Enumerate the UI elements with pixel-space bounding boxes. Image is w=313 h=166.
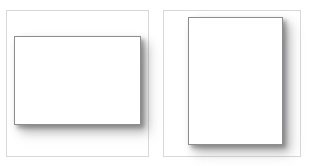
landscape-sheet[interactable]: [14, 36, 141, 125]
landscape-sheet-surface: [15, 37, 140, 124]
portrait-sheet-surface: [189, 18, 282, 144]
portrait-sheet[interactable]: [188, 17, 283, 145]
figure-canvas: [0, 0, 313, 166]
